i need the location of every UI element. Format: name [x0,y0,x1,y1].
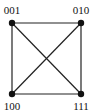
node-111 [78,91,84,97]
label-001: 001 [4,4,21,16]
label-100: 100 [4,100,21,112]
node-100 [9,91,15,97]
node-010 [78,20,84,26]
label-010: 010 [73,4,90,16]
node-001 [9,20,15,26]
edges [12,23,81,94]
label-111: 111 [73,100,89,112]
graph-diagram: 001 010 100 111 [0,0,94,112]
